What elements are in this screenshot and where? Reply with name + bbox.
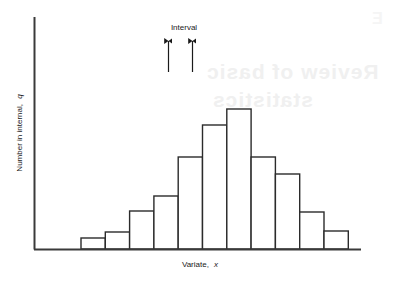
histogram-bar (154, 196, 178, 249)
histogram-bars (81, 109, 348, 249)
interval-marker-right-icon (188, 38, 196, 72)
histogram-bar (130, 211, 154, 249)
y-axis-label-main: Number in internal, (15, 104, 24, 172)
histogram-bar (227, 109, 251, 249)
histogram-bar (275, 174, 299, 249)
chart-svg: Interval Number in internal, q Variate, … (0, 0, 402, 283)
histogram-bar (81, 238, 105, 249)
y-axis-label: Number in internal, q (15, 94, 24, 172)
interval-label: Interval (171, 23, 197, 32)
interval-annotation: Interval (164, 23, 197, 72)
y-axis-label-variable: q (15, 94, 24, 99)
histogram-bar (203, 125, 227, 249)
svg-text:Variate, x: Variate, x (182, 260, 219, 269)
histogram-bar (324, 231, 348, 249)
x-axis-label: Variate, x (182, 260, 219, 269)
histogram-bar (300, 212, 324, 249)
interval-marker-left-icon (164, 38, 172, 72)
histogram-figure: Review of basic statistics Standard d E … (0, 0, 402, 283)
svg-text:Number in internal, q: Number in internal, q (15, 94, 24, 172)
x-axis-label-main: Variate, (182, 260, 209, 269)
histogram-bar (178, 157, 202, 249)
x-axis-label-variable: x (213, 260, 219, 269)
histogram-bar (251, 157, 275, 249)
histogram-bar (105, 232, 129, 249)
